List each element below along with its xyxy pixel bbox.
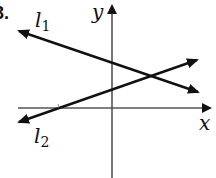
- y-axis-label: y: [92, 2, 103, 22]
- line-l2-label: l2: [34, 126, 49, 149]
- diagram-canvas: [0, 0, 216, 178]
- x-axis-label: x: [199, 113, 210, 133]
- problem-number: 3.: [0, 4, 9, 22]
- line-l1-label: l1: [35, 10, 50, 33]
- x-axis-tick-mark: [58, 104, 59, 108]
- line-l2-subscript: 2: [40, 134, 49, 150]
- coordinate-diagram: 3. l1 l2 y x: [0, 0, 216, 178]
- line-l2: [19, 60, 197, 122]
- line-l1: [19, 31, 198, 92]
- line-l1-subscript: 1: [41, 18, 50, 34]
